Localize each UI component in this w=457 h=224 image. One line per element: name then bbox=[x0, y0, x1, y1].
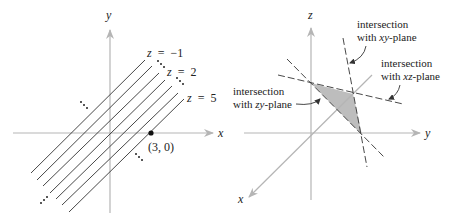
annotation-zy-arrow bbox=[296, 99, 320, 104]
right-z-axis-label: z bbox=[307, 8, 313, 22]
level-lines bbox=[31, 60, 184, 212]
right-y-axis-label: y bbox=[424, 126, 431, 140]
left-y-axis-label: y bbox=[105, 8, 112, 22]
level-line bbox=[43, 73, 159, 186]
left-x-axis-label: x bbox=[217, 126, 224, 140]
right-x-axis-label: x bbox=[237, 192, 244, 206]
point-label: (3, 0) bbox=[148, 140, 174, 154]
annotation-xz-arrow bbox=[389, 85, 400, 99]
annotation-xz-line1: intersection bbox=[381, 57, 433, 69]
level-label-z-neg1: z = −1 bbox=[146, 46, 183, 60]
annotation-zy-line1: intersection bbox=[233, 85, 285, 97]
annotation-xy-line1: intersection bbox=[357, 18, 409, 30]
level-label-z-5: z = 5 bbox=[186, 91, 216, 105]
annotation-xy-arrow bbox=[350, 46, 366, 63]
figure: y x z = −1 z = 2 bbox=[0, 0, 457, 224]
annotation-zy-line2: with zy-plane bbox=[233, 98, 292, 110]
annotation-xy-line2: with xy-plane bbox=[357, 31, 417, 43]
trace-zy-plane bbox=[287, 59, 384, 157]
level-line bbox=[37, 66, 152, 180]
point-3-0 bbox=[148, 130, 153, 135]
level-label-z-2: z = 2 bbox=[166, 65, 196, 79]
left-panel-level-curves: y x z = −1 z = 2 bbox=[13, 8, 224, 213]
level-line bbox=[69, 99, 184, 212]
annotation-xz-line2: with xz-plane bbox=[381, 70, 440, 82]
right-panel-plane-3d: z y x intersection with xy-plane interse… bbox=[233, 8, 440, 206]
